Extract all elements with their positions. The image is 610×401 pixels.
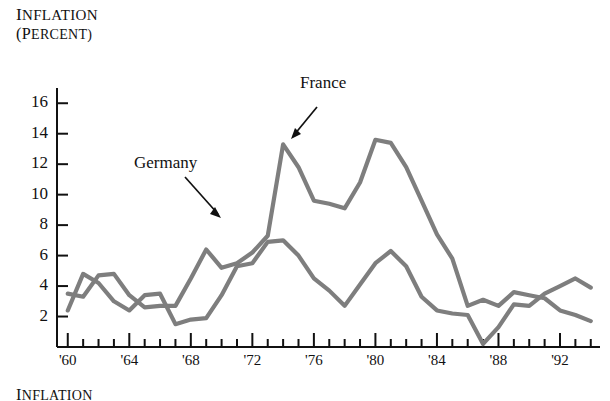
x-tick-label: '80 xyxy=(355,352,395,369)
x-tick-label: '68 xyxy=(171,352,211,369)
y-tick-label: 12 xyxy=(18,153,48,173)
y-tick-label: 2 xyxy=(18,306,48,326)
inflation-line-chart: INFLATION (PERCENT) 246810121416 '60'64'… xyxy=(0,0,610,401)
germany-arrow-line xyxy=(185,177,218,214)
x-tick-label: '84 xyxy=(417,352,457,369)
axes xyxy=(57,88,600,347)
germany-arrow-head xyxy=(210,207,221,218)
y-tick-label: 14 xyxy=(18,123,48,143)
x-tick-label: '72 xyxy=(232,352,272,369)
x-tick-label: '76 xyxy=(294,352,334,369)
series-label-france: France xyxy=(300,73,346,93)
footer-partial-caption: INFLATION xyxy=(16,386,93,401)
y-tick-label: 4 xyxy=(18,275,48,295)
y-axis-ticks xyxy=(57,103,68,316)
y-tick-label: 6 xyxy=(18,245,48,265)
series-label-germany: Germany xyxy=(134,153,197,173)
plot-area xyxy=(0,0,610,401)
x-tick-label: '60 xyxy=(48,352,88,369)
france-arrow-head xyxy=(291,128,301,139)
x-tick-label: '64 xyxy=(109,352,149,369)
x-axis-ticks xyxy=(68,333,591,347)
x-tick-label: '88 xyxy=(478,352,518,369)
y-tick-label: 16 xyxy=(18,92,48,112)
x-tick-label: '92 xyxy=(540,352,580,369)
y-tick-label: 10 xyxy=(18,184,48,204)
y-tick-label: 8 xyxy=(18,214,48,234)
